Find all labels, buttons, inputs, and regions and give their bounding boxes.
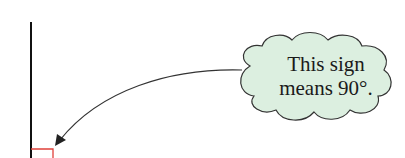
arrowhead-icon [55,134,66,146]
callout-line-2: means 90°. [262,76,390,100]
curved-arrow [60,70,242,140]
callout-line-1: This sign [262,52,390,76]
right-angle-marker [31,149,53,158]
callout-text: This sign means 90°. [262,52,390,100]
